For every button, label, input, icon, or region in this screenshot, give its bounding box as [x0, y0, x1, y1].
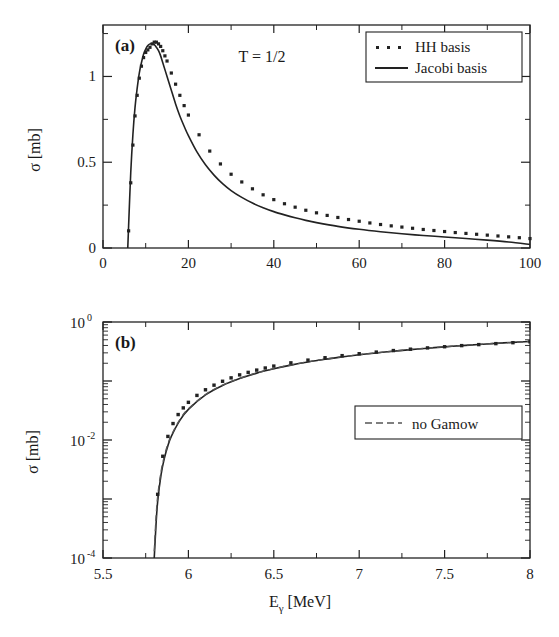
datapoint-hh-basis [176, 413, 179, 416]
datapoint-hh-basis [507, 235, 510, 238]
figure-container: 02040608010000.51(a)T = 1/2σ [mb]HH basi… [0, 0, 559, 637]
datapoint-hh-basis [240, 180, 243, 183]
datapoint-hh-basis [340, 354, 343, 357]
datapoint-hh-basis [289, 361, 292, 364]
datapoint-hh-basis [496, 234, 499, 237]
datapoint-hh-basis [528, 340, 531, 343]
datapoint-hh-basis [347, 218, 350, 221]
datapoint-hh-basis [392, 349, 395, 352]
datapoint-hh-basis [136, 94, 139, 97]
datapoint-hh-basis [528, 237, 531, 240]
datapoint-hh-basis [262, 193, 265, 196]
datapoint-hh-basis [464, 232, 467, 235]
datapoint-hh-basis [477, 343, 480, 346]
datapoint-hh-basis [400, 225, 403, 228]
legend-label-hh-basis: HH basis [415, 39, 471, 55]
y-axis-title-text: σ [mb] [24, 430, 41, 474]
svg-text:20: 20 [181, 255, 196, 271]
datapoint-hh-basis [142, 56, 145, 59]
x-axis-title-text: Eγ [MeV] [269, 593, 331, 614]
datapoint-hh-basis [379, 223, 382, 226]
datapoint-hh-basis [156, 493, 159, 496]
svg-text:0: 0 [89, 240, 97, 256]
datapoint-hh-basis [133, 114, 136, 117]
legend-swatch-dotted [376, 46, 379, 49]
datapoint-hh-basis [182, 406, 185, 409]
svg-text:5.5: 5.5 [94, 566, 113, 582]
datapoint-hh-basis [486, 234, 489, 237]
svg-text:80: 80 [437, 255, 452, 271]
datapoint-hh-basis [187, 401, 190, 404]
svg-text:100: 100 [519, 255, 542, 271]
datapoint-hh-basis [163, 54, 166, 57]
panel-a-tick-labels: 02040608010000.51 [77, 68, 541, 271]
datapoint-hh-basis [251, 187, 254, 190]
svg-text:6.5: 6.5 [264, 566, 283, 582]
datapoint-hh-basis [219, 162, 222, 165]
datapoint-hh-basis [208, 149, 211, 152]
datapoint-hh-basis [264, 366, 267, 369]
datapoint-hh-basis [323, 356, 326, 359]
datapoint-hh-basis [165, 59, 168, 62]
datapoint-hh-basis [390, 224, 393, 227]
legend-swatch-dotted [398, 46, 401, 49]
datapoint-hh-basis [170, 71, 173, 74]
datapoint-hh-basis [166, 435, 169, 438]
svg-text:(b): (b) [115, 333, 136, 352]
datapoint-hh-basis [138, 77, 141, 80]
datapoint-hh-basis [336, 216, 339, 219]
datapoint-hh-basis [511, 341, 514, 344]
datapoint-hh-basis [230, 173, 233, 176]
datapoint-hh-basis [422, 228, 425, 231]
datapoint-hh-basis [195, 394, 198, 397]
legend-swatch-dotted [387, 46, 390, 49]
y-tick-base: 10 [70, 315, 85, 331]
datapoint-hh-basis [272, 198, 275, 201]
panel-b [103, 322, 530, 558]
datapoint-hh-basis [183, 104, 186, 107]
svg-text:7.5: 7.5 [435, 566, 454, 582]
datapoint-hh-basis [238, 373, 241, 376]
datapoint-hh-basis [229, 376, 232, 379]
legend-label-no-gamow: no Gamow [412, 416, 478, 432]
datapoint-hh-basis [174, 83, 177, 86]
svg-text:6: 6 [185, 566, 193, 582]
datapoint-hh-basis [246, 371, 249, 374]
svg-text:0.5: 0.5 [77, 154, 96, 170]
panel-b-label-g: (b) [115, 333, 136, 352]
datapoint-hh-basis [131, 143, 134, 146]
datapoint-hh-basis [161, 49, 164, 52]
datapoint-hh-basis [443, 345, 446, 348]
datapoint-hh-basis [221, 380, 224, 383]
datapoint-hh-basis [443, 230, 446, 233]
datapoint-hh-basis [178, 94, 181, 97]
panel-b-legend: no Gamow [355, 406, 522, 439]
legend-label-jacobi-basis: Jacobi basis [415, 60, 487, 76]
datapoint-hh-basis [255, 368, 258, 371]
datapoint-hh-basis [475, 233, 478, 236]
panel-b-curves [154, 340, 531, 558]
datapoint-hh-basis [368, 221, 371, 224]
curve-jacobi-basis [154, 341, 530, 558]
datapoint-hh-basis [411, 227, 414, 230]
datapoint-hh-basis [315, 211, 318, 214]
plot-frame [103, 322, 530, 558]
datapoint-hh-basis [426, 346, 429, 349]
panel-a-y-axis-title: σ [mb] [26, 128, 43, 172]
panel-b-y-axis-title: σ [mb] [24, 430, 41, 474]
svg-text:40: 40 [266, 255, 281, 271]
y-tick-exponent: -2 [87, 430, 95, 441]
datapoint-hh-basis [187, 113, 190, 116]
datapoint-hh-basis [432, 229, 435, 232]
svg-text:T = 1/2: T = 1/2 [239, 48, 286, 65]
datapoint-hh-basis [375, 350, 378, 353]
datapoint-hh-basis [140, 65, 143, 68]
svg-text:1: 1 [89, 68, 97, 84]
datapoint-hh-basis [212, 383, 215, 386]
datapoint-hh-basis [129, 181, 132, 184]
svg-text:60: 60 [352, 255, 367, 271]
panel-b-ticks [103, 322, 530, 558]
datapoint-hh-basis [306, 358, 309, 361]
datapoint-hh-basis [518, 236, 521, 239]
datapoint-hh-basis [127, 229, 130, 232]
